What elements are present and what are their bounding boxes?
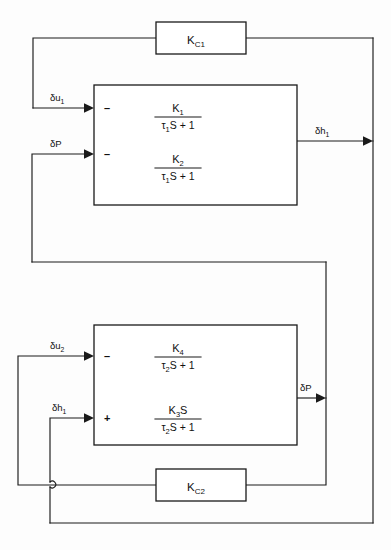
block-diagram-svg: KC1 – – K1 τ1S + 1 K2 τ1S + 1 [0,0,391,550]
controller-kc2-box[interactable] [156,469,246,501]
arrowhead-dh1-in [84,413,94,423]
block-diagram-canvas: KC1 – – K1 τ1S + 1 K2 τ1S + 1 [0,0,391,550]
controller-kc2[interactable]: KC2 [156,469,246,501]
arrowhead-du2 [84,351,94,361]
process-block-lower-box[interactable] [94,325,297,445]
controller-kc1[interactable]: KC1 [156,22,246,54]
wire-dp-to-upper-block [32,154,84,262]
process-block-lower[interactable]: – + K4 τ2S + 1 K3S τ2S + 1 [94,325,297,445]
arrowhead-du1 [84,103,94,113]
wire-hop-to-dh1-input [50,418,84,482]
arrowhead-dp-in [84,149,94,159]
sign-lower-top: – [104,350,110,362]
signal-delta-u1: δu1 [50,92,65,105]
process-block-upper[interactable]: – – K1 τ1S + 1 K2 τ1S + 1 [94,85,297,205]
sign-upper-bottom: – [104,148,110,160]
signal-delta-p-output: δP [300,382,312,393]
arrowhead-dp-out [316,393,326,403]
process-block-upper-box[interactable] [94,85,297,205]
sign-upper-top: – [104,102,110,114]
signal-delta-u2: δu2 [50,340,65,353]
signal-delta-h1-input: δh1 [52,402,67,415]
signal-delta-h1-output: δh1 [315,125,330,138]
sign-lower-bottom: + [104,412,110,424]
controller-kc1-box[interactable] [156,22,246,54]
arrowhead-dh1-out [363,136,373,146]
signal-delta-p-input: δP [50,138,62,149]
